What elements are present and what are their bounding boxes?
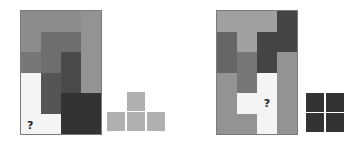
- grid-cell: [277, 73, 297, 94]
- piece-block: [326, 113, 344, 132]
- grid-cell: [257, 52, 277, 73]
- grid-cell: [81, 93, 101, 114]
- grid-cell: [61, 52, 81, 73]
- grid-cell: [257, 114, 277, 135]
- grid-cell: [61, 93, 81, 114]
- grid-cell: [21, 93, 41, 114]
- grid-cell: [217, 114, 237, 135]
- puzzle-grid-left: ?: [20, 10, 102, 135]
- piece-block: [326, 93, 344, 112]
- grid-cell: [61, 11, 81, 32]
- grid-cell: [257, 32, 277, 53]
- grid-cell: [61, 32, 81, 53]
- piece-block: [306, 93, 324, 112]
- piece-block: [107, 112, 125, 131]
- grid-cell: [41, 32, 61, 53]
- grid-cell: ?: [21, 114, 41, 135]
- grid-cell: [277, 32, 297, 53]
- grid-cell: [277, 11, 297, 32]
- grid-cell: [21, 73, 41, 94]
- grid-cell: [41, 11, 61, 32]
- grid-cell: [41, 52, 61, 73]
- piece-block: [147, 112, 165, 131]
- grid-cell: [237, 32, 257, 53]
- piece-block: [127, 92, 145, 111]
- grid-cell: [277, 93, 297, 114]
- grid-cell: [81, 11, 101, 32]
- question-mark: ?: [264, 97, 270, 110]
- grid-cell: [41, 114, 61, 135]
- grid-cell: [237, 73, 257, 94]
- grid-cell: [217, 11, 237, 32]
- piece-block: [127, 112, 145, 131]
- grid-cell: [81, 52, 101, 73]
- grid-cell: [21, 52, 41, 73]
- grid-cell: [21, 11, 41, 32]
- grid-cell: [237, 114, 257, 135]
- grid-cell: [237, 52, 257, 73]
- puzzle-grid-right: ?: [216, 10, 298, 135]
- grid-cell: [81, 73, 101, 94]
- grid-cell: [277, 52, 297, 73]
- grid-cell: [61, 114, 81, 135]
- grid-cell: [81, 114, 101, 135]
- grid-cell: [217, 32, 237, 53]
- grid-cell: [257, 73, 277, 94]
- grid-cell: [41, 73, 61, 94]
- grid-cell: [81, 32, 101, 53]
- grid-cell: [237, 93, 257, 114]
- grid-cell: [257, 11, 277, 32]
- grid-cell: [21, 32, 41, 53]
- grid-cell: [217, 73, 237, 94]
- piece-block: [306, 113, 324, 132]
- question-mark: ?: [27, 119, 33, 132]
- grid-cell: [217, 93, 237, 114]
- grid-cell: [277, 114, 297, 135]
- grid-cell: [217, 52, 237, 73]
- grid-cell: ?: [257, 93, 277, 114]
- grid-cell: [41, 93, 61, 114]
- grid-cell: [61, 73, 81, 94]
- grid-cell: [237, 11, 257, 32]
